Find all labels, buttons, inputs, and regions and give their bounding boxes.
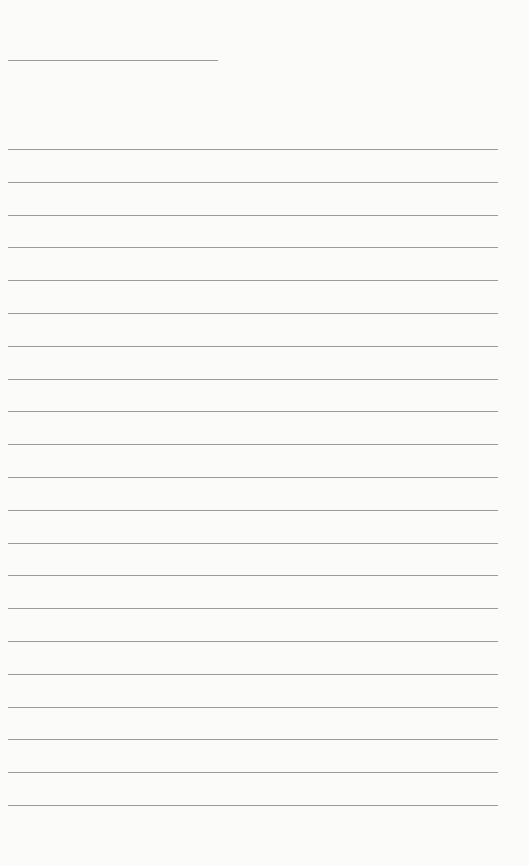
ruled-line <box>8 707 498 708</box>
ruled-line <box>8 575 498 576</box>
ruled-line <box>8 772 498 773</box>
ruled-line <box>8 346 498 347</box>
ruled-line <box>8 182 498 183</box>
ruled-line <box>8 739 498 740</box>
ruled-line <box>8 674 498 675</box>
ruled-line <box>8 805 498 806</box>
ruled-line <box>8 313 498 314</box>
header-name-line <box>8 60 218 61</box>
ruled-line <box>8 215 498 216</box>
ruled-line <box>8 510 498 511</box>
ruled-line <box>8 247 498 248</box>
ruled-line <box>8 149 498 150</box>
ruled-line <box>8 608 498 609</box>
lined-paper-page <box>0 0 529 866</box>
ruled-line <box>8 280 498 281</box>
ruled-line <box>8 641 498 642</box>
ruled-lines <box>8 149 498 838</box>
ruled-line <box>8 411 498 412</box>
ruled-line <box>8 543 498 544</box>
ruled-line <box>8 379 498 380</box>
ruled-line <box>8 444 498 445</box>
ruled-line <box>8 477 498 478</box>
